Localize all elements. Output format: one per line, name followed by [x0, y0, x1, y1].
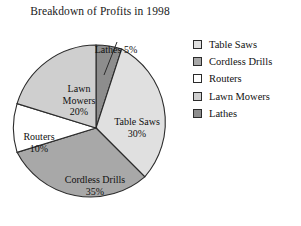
- legend-label: Lathes: [209, 108, 237, 119]
- legend-swatch-icon: [193, 109, 202, 118]
- legend-label: Table Saws: [209, 39, 257, 50]
- slice-label-cordless-drills-name: Cordless Drills: [46, 174, 144, 186]
- legend-swatch-icon: [193, 74, 202, 83]
- slice-label-lawn-mowers-value: 20%: [48, 106, 110, 118]
- slice-label-routers: Routers 10%: [8, 131, 70, 154]
- legend-item-table-saws[interactable]: Table Saws: [193, 36, 297, 53]
- legend-label: Routers: [209, 73, 242, 84]
- slice-label-routers-name: Routers: [8, 131, 70, 143]
- pie-plot-area: Lathes 5% Table Saws 30% Cordless Drills…: [0, 18, 186, 226]
- slice-label-table-saws-name: Table Saws: [104, 116, 170, 128]
- slice-label-lawn-mowers: Lawn Mowers 20%: [48, 83, 110, 118]
- legend: Table Saws Cordless Drills Routers Lawn …: [193, 36, 297, 122]
- slice-label-lawn-mowers-name-line1: Lawn: [48, 83, 110, 95]
- slice-label-table-saws: Table Saws 30%: [104, 116, 170, 139]
- legend-item-lawn-mowers[interactable]: Lawn Mowers: [193, 88, 297, 105]
- slice-label-routers-value: 10%: [8, 143, 70, 155]
- legend-swatch-icon: [193, 57, 202, 66]
- legend-item-cordless-drills[interactable]: Cordless Drills: [193, 53, 297, 70]
- legend-swatch-icon: [193, 92, 202, 101]
- slice-label-cordless-drills: Cordless Drills 35%: [46, 174, 144, 197]
- legend-item-lathes[interactable]: Lathes: [193, 105, 297, 122]
- pie-chart-figure: Breakdown of Profits in 1998 Lathes 5% T…: [0, 0, 301, 226]
- slice-label-lathes: Lathes 5%: [76, 44, 156, 56]
- legend-label: Cordless Drills: [209, 56, 272, 67]
- chart-title: Breakdown of Profits in 1998: [0, 5, 200, 17]
- slice-label-table-saws-value: 30%: [104, 128, 170, 140]
- slice-label-cordless-drills-value: 35%: [46, 186, 144, 198]
- legend-label: Lawn Mowers: [209, 91, 270, 102]
- legend-item-routers[interactable]: Routers: [193, 70, 297, 87]
- legend-swatch-icon: [193, 40, 202, 49]
- slice-label-lawn-mowers-name-line2: Mowers: [48, 95, 110, 107]
